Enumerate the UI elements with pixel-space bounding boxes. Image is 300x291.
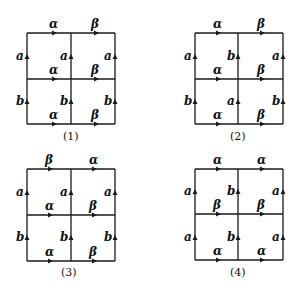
top-left-label: α: [49, 17, 58, 31]
arrow-right-icon: [48, 213, 53, 218]
arrow-up-icon: [281, 54, 286, 59]
lower-right-label: a: [272, 230, 280, 244]
arrow-up-icon: [236, 235, 241, 240]
arrow-right-icon: [216, 212, 221, 217]
arrow-up-icon: [25, 235, 30, 240]
arrow-right-icon: [216, 258, 221, 263]
middle-left-label: β: [212, 198, 221, 212]
arrow-up-icon: [69, 190, 74, 195]
arrow-right-icon: [216, 122, 221, 127]
lower-center-label: b: [60, 230, 68, 244]
upper-left-label: a: [184, 184, 192, 198]
arrow-right-icon: [260, 122, 265, 127]
middle-left-label: α: [45, 199, 54, 213]
arrow-up-icon: [193, 235, 198, 240]
lower-left-label: b: [184, 94, 192, 108]
arrow-up-icon: [236, 54, 241, 59]
top-right-label: α: [89, 153, 98, 167]
upper-left-label: a: [16, 49, 24, 63]
arrow-up-icon: [25, 99, 30, 104]
arrow-right-icon: [52, 77, 57, 82]
diagram-canvas: α β α β α β a a a b b b (1) α β α β: [0, 0, 300, 291]
arrow-right-icon: [48, 167, 53, 172]
arrow-up-icon: [69, 235, 74, 240]
upper-center-label: b: [227, 49, 235, 63]
bottom-left-label: α: [49, 108, 58, 122]
arrow-right-icon: [92, 167, 97, 172]
lower-left-label: b: [16, 94, 24, 108]
middle-left-label: α: [213, 63, 222, 77]
bottom-left-label: α: [45, 245, 54, 259]
arrow-up-icon: [193, 54, 198, 59]
lower-center-label: b: [60, 94, 68, 108]
upper-left-label: a: [16, 185, 24, 199]
upper-right-label: a: [104, 185, 112, 199]
arrow-up-icon: [281, 235, 286, 240]
upper-center-label: a: [60, 49, 68, 63]
bottom-left-label: α: [213, 244, 222, 258]
lower-center-label: a: [227, 94, 235, 108]
bottom-left-label: α: [213, 108, 222, 122]
upper-right-label: a: [104, 49, 112, 63]
upper-right-label: a: [272, 49, 280, 63]
lower-right-label: b: [272, 94, 280, 108]
bottom-right-label: β: [90, 108, 99, 122]
caption: (1): [63, 130, 79, 143]
arrow-right-icon: [260, 167, 265, 172]
arrow-up-icon: [113, 99, 118, 104]
top-right-label: β: [90, 17, 99, 31]
lower-center-label: b: [227, 230, 235, 244]
top-right-label: β: [256, 17, 265, 31]
upper-left-label: a: [184, 49, 192, 63]
top-left-label: β: [44, 153, 53, 167]
upper-right-label: a: [272, 184, 280, 198]
arrow-up-icon: [69, 99, 74, 104]
arrow-up-icon: [113, 54, 118, 59]
arrow-right-icon: [92, 259, 97, 264]
arrow-up-icon: [69, 54, 74, 59]
arrow-up-icon: [281, 189, 286, 194]
lower-right-label: b: [104, 230, 112, 244]
arrow-up-icon: [193, 99, 198, 104]
top-right-label: α: [257, 153, 266, 167]
middle-right-label: β: [256, 198, 265, 212]
middle-right-label: β: [88, 199, 97, 213]
top-left-label: α: [213, 17, 222, 31]
arrow-right-icon: [94, 31, 99, 36]
bottom-right-label: β: [88, 245, 97, 259]
middle-right-label: β: [256, 63, 265, 77]
lower-left-label: b: [16, 230, 24, 244]
arrow-right-icon: [216, 31, 221, 36]
arrow-right-icon: [52, 31, 57, 36]
arrow-right-icon: [216, 77, 221, 82]
caption: (2): [230, 130, 246, 143]
arrow-right-icon: [52, 122, 57, 127]
arrow-up-icon: [25, 54, 30, 59]
arrow-right-icon: [260, 31, 265, 36]
arrow-up-icon: [193, 189, 198, 194]
lower-left-label: a: [184, 230, 192, 244]
lower-right-label: b: [104, 94, 112, 108]
arrow-up-icon: [113, 190, 118, 195]
top-left-label: α: [213, 153, 222, 167]
arrow-up-icon: [236, 99, 241, 104]
arrow-up-icon: [236, 189, 241, 194]
bottom-right-label: β: [256, 108, 265, 122]
middle-left-label: α: [49, 63, 58, 77]
upper-center-label: b: [227, 184, 235, 198]
diagram-2: α β α β α β a b a b a b (2): [184, 17, 286, 143]
middle-right-label: β: [90, 63, 99, 77]
diagram-4: α α β β α α a b a a b a (4): [184, 153, 286, 279]
caption: (3): [61, 266, 77, 279]
arrow-right-icon: [260, 212, 265, 217]
arrow-up-icon: [281, 99, 286, 104]
arrow-right-icon: [260, 258, 265, 263]
arrow-right-icon: [92, 213, 97, 218]
arrow-up-icon: [113, 235, 118, 240]
arrow-up-icon: [25, 190, 30, 195]
bottom-right-label: α: [257, 244, 266, 258]
arrow-right-icon: [260, 77, 265, 82]
upper-center-label: a: [60, 185, 68, 199]
diagram-1: α β α β α β a a a b b b (1): [16, 17, 118, 143]
arrow-right-icon: [94, 77, 99, 82]
